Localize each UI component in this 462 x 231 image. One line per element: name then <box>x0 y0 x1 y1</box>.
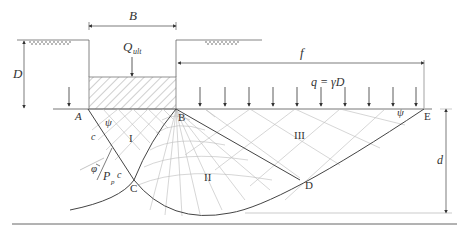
zone-1-label: I <box>129 132 133 144</box>
cohesion-upper-label: c <box>91 131 96 142</box>
point-a-label: A <box>74 110 82 122</box>
footing <box>89 77 176 109</box>
slip-line-grid <box>92 109 405 216</box>
cohesion-lower-label: c <box>117 169 122 180</box>
extent-dimension <box>178 60 424 108</box>
depth-label: D <box>12 66 23 81</box>
zone-3-label: III <box>294 129 305 141</box>
zone-2-label: II <box>204 171 212 183</box>
width-dimension <box>89 22 176 30</box>
point-d-label: D <box>305 179 313 191</box>
passive-subscript: p <box>110 178 115 186</box>
point-e-label: E <box>424 110 431 122</box>
load-label: Q <box>123 39 133 54</box>
failure-surface <box>70 109 424 216</box>
failure-depth-label: d <box>437 153 444 167</box>
ground-surface <box>17 40 262 77</box>
width-label: B <box>129 8 137 23</box>
point-c-label: C <box>130 182 137 194</box>
psi-left-label: ψ <box>105 116 112 128</box>
failure-depth-dimension <box>245 109 452 213</box>
point-b-label: B <box>178 111 185 123</box>
surcharge-label: q = γD <box>311 75 345 89</box>
phi-label: φ <box>91 162 97 174</box>
psi-right-label: ψ <box>397 106 404 118</box>
load-subscript: ult <box>133 47 142 56</box>
bearing-capacity-diagram: B Q ult D f q = γD <box>0 0 462 231</box>
extent-label: f <box>300 45 306 60</box>
passive-label: P <box>102 169 111 183</box>
